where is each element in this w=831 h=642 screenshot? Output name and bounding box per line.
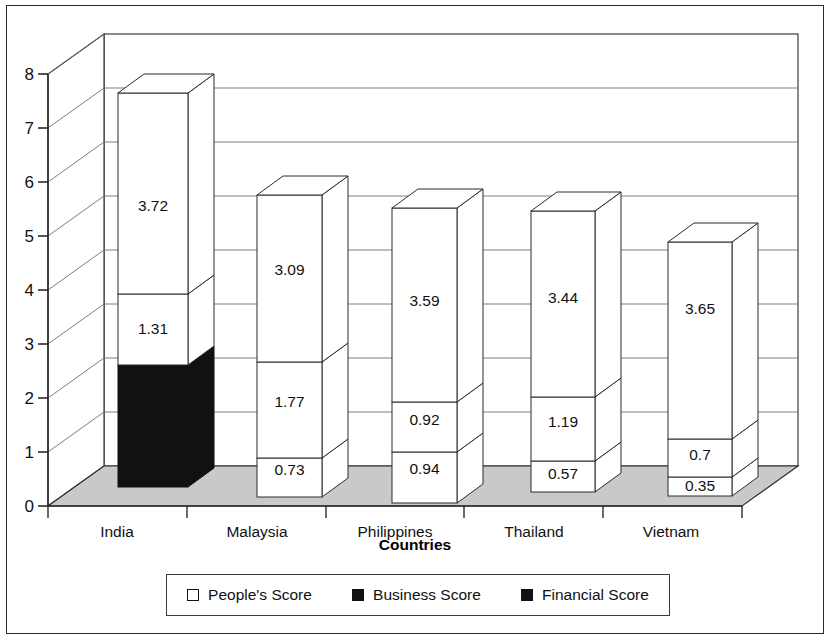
x-tick-vietnam: Vietnam (628, 524, 714, 540)
value-label-thailand-financial: 0.57 (531, 466, 595, 482)
legend-swatch-icon-financial-score (521, 589, 533, 601)
x-tick-india: India (78, 524, 156, 540)
value-label-vietnam-financial: 0.35 (668, 478, 732, 494)
y-axis (38, 74, 48, 506)
value-label-philippines-people: 3.59 (392, 293, 457, 309)
bar-india (118, 74, 214, 487)
legend-swatch-icon-business-score (352, 589, 364, 601)
value-label-thailand-business: 1.19 (531, 414, 595, 430)
y-tick-6: 6 (8, 174, 34, 191)
x-tick-malaysia: Malaysia (212, 524, 302, 540)
y-tick-7: 7 (8, 120, 34, 137)
value-label-philippines-business: 0.92 (392, 412, 457, 428)
value-label-thailand-people: 3.44 (531, 290, 595, 306)
legend-item-peoples-score[interactable]: People's Score (187, 587, 312, 603)
legend-label-peoples-score: People's Score (208, 587, 312, 603)
y-tick-4: 4 (8, 282, 34, 299)
x-axis (48, 506, 742, 518)
legend-swatch-icon-peoples-score (187, 589, 199, 601)
value-label-malaysia-people: 3.09 (257, 262, 322, 278)
y-tick-5: 5 (8, 228, 34, 245)
chart-screenshot: 8 7 6 5 4 3 2 1 0 India Malaysia Philipp… (0, 0, 831, 642)
y-tick-2: 2 (8, 390, 34, 407)
legend-item-business-score[interactable]: Business Score (352, 587, 481, 603)
legend-label-business-score: Business Score (373, 587, 481, 603)
x-tick-thailand: Thailand (488, 524, 580, 540)
value-label-vietnam-business: 0.7 (668, 447, 732, 463)
bar-philippines (392, 189, 483, 503)
value-label-vietnam-people: 3.65 (668, 301, 732, 317)
x-axis-title: Countries (335, 536, 495, 553)
value-label-india-people: 3.72 (118, 198, 188, 214)
y-tick-3: 3 (8, 336, 34, 353)
bar-thailand (531, 192, 621, 492)
value-label-malaysia-business: 1.77 (257, 394, 322, 410)
value-label-malaysia-financial: 0.73 (257, 462, 322, 478)
chart-legend: People's Score Business Score Financial … (166, 574, 670, 616)
y-tick-8: 8 (8, 66, 34, 83)
bar-malaysia (257, 176, 348, 497)
legend-item-financial-score[interactable]: Financial Score (521, 587, 649, 603)
value-label-philippines-financial: 0.94 (392, 461, 457, 477)
legend-label-financial-score: Financial Score (542, 587, 649, 603)
y-tick-1: 1 (8, 444, 34, 461)
y-tick-0: 0 (8, 498, 34, 515)
value-label-india-business: 1.31 (118, 321, 188, 337)
